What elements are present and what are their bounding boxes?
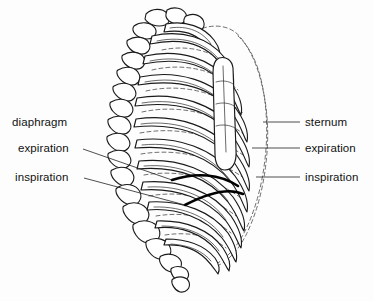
sternum-bone xyxy=(213,57,236,170)
label-right-inspiration: inspiration xyxy=(305,171,359,183)
label-right-expiration: expiration xyxy=(305,142,356,154)
label-left-inspiration: inspiration xyxy=(15,171,69,183)
label-sternum: sternum xyxy=(305,116,347,128)
label-diaphragm: diaphragm xyxy=(12,116,67,128)
labels-right: sternum expiration inspiration xyxy=(305,116,359,183)
label-left-expiration: expiration xyxy=(18,142,69,154)
ribcage-diagram: diaphragm expiration inspiration sternum… xyxy=(0,0,374,301)
figure-canvas: diaphragm expiration inspiration sternum… xyxy=(0,0,374,301)
labels-left: diaphragm expiration inspiration xyxy=(12,116,69,183)
